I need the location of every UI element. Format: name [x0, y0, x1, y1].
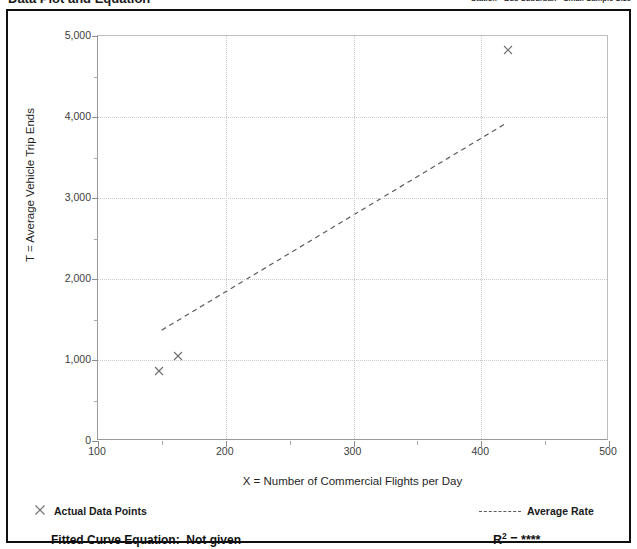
data-point-marker — [173, 350, 184, 361]
plot-area — [97, 35, 608, 440]
legend-label-actual-data-points: Actual Data Points — [54, 505, 147, 517]
y-axis-tick — [92, 279, 98, 280]
r-squared-label: R — [493, 533, 502, 547]
chart-page: Data Plot and Equation Station - Bus Sub… — [0, 0, 637, 549]
y-axis-minor-tick — [94, 320, 98, 321]
y-axis-tick — [92, 360, 98, 361]
x-axis-tick-label: 500 — [599, 445, 617, 457]
data-point-marker — [154, 365, 165, 376]
dashed-line-icon — [479, 511, 521, 512]
y-axis-tick — [92, 36, 98, 37]
header-station-label: Station - Bus Suburban - Small Sample Si… — [471, 0, 631, 3]
fitted-curve-equation-label: Fitted Curve Equation: — [51, 533, 180, 547]
y-axis-minor-tick — [94, 77, 98, 78]
r-squared-value: **** — [521, 533, 540, 547]
y-axis-tick — [92, 117, 98, 118]
x-axis-tick-label: 400 — [471, 445, 489, 457]
x-axis-title: X = Number of Commercial Flights per Day — [97, 475, 608, 487]
y-axis-minor-tick — [94, 239, 98, 240]
y-axis-tick-label: 3,000 — [65, 191, 91, 203]
page-title: Data Plot and Equation — [8, 0, 150, 6]
average-rate-trendline — [98, 36, 607, 439]
y-axis-title: T = Average Vehicle Trip Ends — [24, 25, 36, 345]
y-axis-tick — [92, 198, 98, 199]
trendline-path — [162, 123, 507, 330]
fitted-curve-equation: Fitted Curve Equation: Not given — [51, 533, 241, 547]
x-marker-icon — [33, 503, 47, 517]
y-axis-tick-label: 1,000 — [65, 353, 91, 365]
y-axis-tick-label: 4,000 — [65, 110, 91, 122]
y-axis-tick-label: 2,000 — [65, 272, 91, 284]
x-axis-tick-label: 100 — [88, 445, 106, 457]
x-axis-tick-label: 200 — [216, 445, 234, 457]
x-axis-tick-labels: 100200300400500 — [97, 445, 608, 465]
data-point-marker — [503, 44, 514, 55]
chart-container: T = Average Vehicle Trip Ends 01,0002,00… — [6, 9, 631, 543]
y-axis-minor-tick — [94, 401, 98, 402]
y-axis-minor-tick — [94, 158, 98, 159]
y-axis-tick-labels: 01,0002,0003,0004,0005,000 — [36, 35, 91, 440]
r-squared-equals: = — [507, 533, 521, 547]
y-axis-tick-label: 5,000 — [65, 29, 91, 41]
fitted-curve-equation-value: Not given — [186, 533, 241, 547]
legend-label-average-rate: Average Rate — [527, 505, 594, 517]
r-squared-annotation: R2 = **** — [493, 531, 540, 547]
x-axis-tick-label: 300 — [344, 445, 362, 457]
